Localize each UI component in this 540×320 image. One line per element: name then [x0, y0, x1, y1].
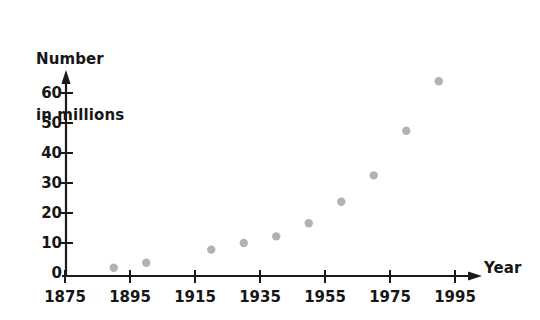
- data-point: [142, 259, 150, 267]
- x-axis: [62, 271, 482, 280]
- data-point: [110, 264, 118, 272]
- data-point: [402, 127, 410, 135]
- data-point: [272, 232, 280, 240]
- y-axis-arrowhead: [61, 70, 70, 84]
- data-point: [337, 198, 345, 206]
- scatter-chart: Number in millions Year 60 50 40 30 20 1…: [0, 0, 540, 320]
- y-axis: [61, 70, 70, 276]
- data-point: [305, 219, 313, 227]
- plot-area: [0, 0, 540, 320]
- data-point: [370, 171, 378, 179]
- data-point: [207, 245, 215, 253]
- x-axis-arrowhead: [468, 271, 482, 280]
- data-point-group: [110, 77, 443, 272]
- data-point: [435, 77, 443, 85]
- data-point: [240, 239, 248, 247]
